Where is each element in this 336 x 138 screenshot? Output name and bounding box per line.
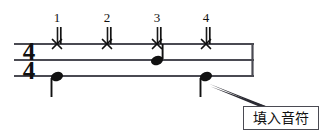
beat-tick-marks <box>58 27 207 44</box>
staff-lines <box>14 44 254 76</box>
snare-note-beat-3 <box>150 44 165 67</box>
time-signature-denominator: 4 <box>23 57 36 84</box>
callout-label: 填入音符 <box>253 111 309 125</box>
hihat-voice <box>53 27 211 49</box>
drum-notation-figure: 1 2 3 4 4 4 <box>0 0 336 138</box>
bass-voice <box>50 70 214 97</box>
callout-box: 填入音符 <box>243 106 319 130</box>
time-signature: 4 4 <box>23 38 36 84</box>
snare-voice <box>150 44 165 67</box>
bass-note-beat-1 <box>50 70 65 97</box>
bass-note-beat-4 <box>199 70 214 97</box>
